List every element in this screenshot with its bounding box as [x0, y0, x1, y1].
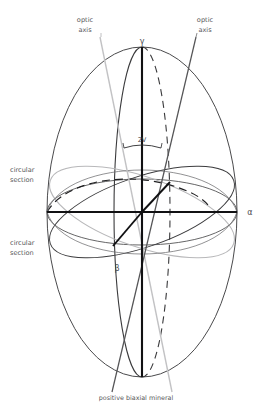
optic-axis-right-label-line2: axis — [198, 26, 212, 34]
optic-axis-line-right — [112, 37, 196, 392]
optic-axis-right-label-line1: optic — [197, 16, 214, 24]
angle-arc-tick-left — [123, 143, 124, 148]
axis-label-alpha: α — [247, 208, 252, 217]
circular-section-top-label-line2: section — [10, 176, 34, 184]
circular-section-top-label-line1: circular — [10, 166, 35, 174]
diagram-caption: positive biaxial mineral — [99, 394, 174, 402]
optic-axis-trace-dark-lower-left — [113, 212, 142, 246]
circular-section-bottom-label-line2: section — [10, 249, 34, 257]
angle-arc-tick-right — [161, 143, 162, 148]
axis-label-beta: β — [114, 264, 119, 273]
circular-section-dashed-trace-upper — [47, 179, 208, 212]
optic-axis-left-label-line1: optic — [77, 16, 94, 24]
biaxial-indicatrix-diagram: optic axis optic axis γ α β 2V circular … — [0, 0, 272, 420]
circular-section-bottom-label-line1: circular — [10, 239, 35, 247]
indicatrix-svg-canvas: optic axis optic axis γ α β 2V circular … — [0, 0, 272, 420]
leader-line-optic-axis-right — [196, 33, 197, 37]
angle-label-2v: 2V — [138, 136, 147, 144]
optic-axis-left-label-line2: axis — [78, 26, 92, 34]
axis-label-gamma: γ — [140, 37, 145, 46]
